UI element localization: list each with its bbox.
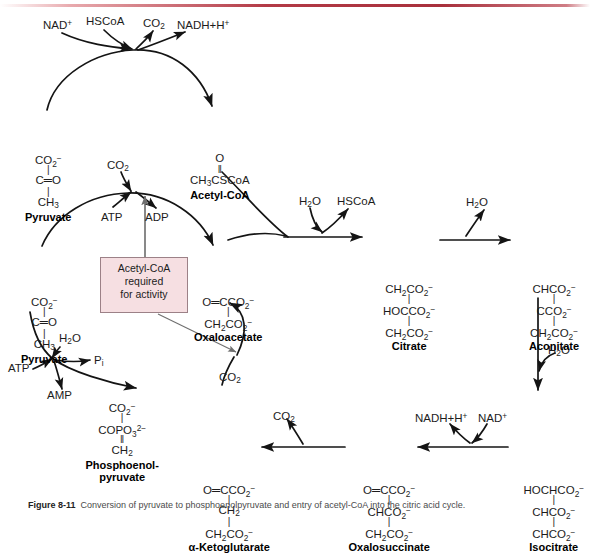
compound-name-isocitrate: Isocitrate (524, 541, 585, 553)
cofactor-co2-akg: CO2 (273, 410, 295, 425)
cofactor-nad-plus-idh: NAD+ (478, 412, 507, 425)
formula-alpha-ketoglutarate: O═CCO2−|CH2|CH2CO2− (189, 482, 270, 539)
compound-name2-phosphoenolpyruvate: pyruvate (86, 471, 159, 483)
formula-phosphoenolpyruvate: CO2−|COPO32−‖CH2 (86, 400, 159, 457)
cofactor-atp-pc: ATP (101, 211, 123, 224)
figure-caption: Figure 8-11 Conversion of pyruvate to ph… (28, 500, 568, 510)
compound-oxalosuccinate: O═CCO2−|CHCO2−|CH2CO2−Oxalosuccinate (349, 482, 430, 553)
formula-pyruvate-bottom: CO2−|C═O|CH3 (21, 294, 67, 351)
cofactor-nadh-h-idh: NADH+H+ (415, 412, 467, 425)
compound-name-pyruvate-bottom: Pyruvate (21, 353, 67, 365)
formula-acetyl-coa: O‖CH3CSCoA (190, 152, 250, 187)
compound-phosphoenolpyruvate: CO2−|COPO32−‖CH2Phosphoenol-pyruvate (86, 400, 159, 484)
cofactor-co2-top: CO2 (143, 17, 165, 32)
compound-citrate: CH2CO2−|HOCCO2−|CH2CO2−Citrate (383, 281, 435, 352)
cofactor-co2-pepck: CO2 (219, 371, 241, 386)
cofactor-h2o-cs: H2O (299, 195, 321, 210)
cofactor-pi-pepck: Pi (94, 354, 104, 369)
formula-pyruvate-top: CO2−|C═O|CH3 (25, 152, 71, 209)
callout-line-1: Acetyl-CoA (106, 262, 182, 275)
cofactor-nad-plus-top: NAD+ (43, 19, 72, 32)
compound-alpha-ketoglutarate: O═CCO2−|CH2|CH2CO2−α-Ketoglutarate (189, 482, 270, 553)
compound-pyruvate-bottom: CO2−|C═O|CH3Pyruvate (21, 294, 67, 365)
cofactor-hscoa-cs: HSCoA (337, 195, 375, 208)
compound-name-aconitate: Aconitate (529, 340, 579, 352)
compound-name-acetyl-coa: Acetyl-CoA (190, 189, 250, 201)
cofactor-amp-pepck: AMP (47, 389, 72, 402)
formula-aconitate: CHCO2−|CCO2−|CH2CO2− (529, 281, 579, 338)
compound-name-pyruvate-top: Pyruvate (25, 211, 71, 223)
cofactor-h2o-aconitase-1: H2O (466, 196, 488, 211)
compound-pyruvate-top: CO2−|C═O|CH3Pyruvate (25, 152, 71, 223)
formula-oxaloacetate: O═CCO2−|CH2CO2− (194, 294, 262, 329)
compound-name-oxaloacetate: Oxaloacetate (194, 331, 262, 343)
formula-citrate: CH2CO2−|HOCCO2−|CH2CO2− (383, 281, 435, 338)
compound-isocitrate: HOCHCO2−|CHCO2−|CHCO2−Isocitrate (524, 482, 585, 553)
formula-isocitrate: HOCHCO2−|CHCO2−|CHCO2− (524, 482, 585, 539)
callout-line-2: required (106, 275, 182, 288)
cofactor-nadh-h-top: NADH+H+ (177, 19, 229, 32)
cofactor-adp-pc: ADP (145, 211, 169, 224)
compound-acetyl-coa: O‖CH3CSCoAAcetyl-CoA (190, 152, 250, 201)
formula-oxalosuccinate: O═CCO2−|CHCO2−|CH2CO2− (349, 482, 430, 539)
compound-aconitate: CHCO2−|CCO2−|CH2CO2−Aconitate (529, 281, 579, 352)
cofactor-hscoa-top: HSCoA (86, 15, 124, 28)
compound-name-phosphoenolpyruvate: Phosphoenol- (86, 459, 159, 471)
callout-line-3: for activity (106, 288, 182, 301)
compound-name-oxalosuccinate: Oxalosuccinate (349, 541, 430, 553)
compound-name-alpha-ketoglutarate: α-Ketoglutarate (189, 541, 270, 553)
callout-box: Acetyl-CoA required for activity (100, 257, 188, 313)
cofactor-co2-pc: CO2 (107, 159, 129, 174)
compound-oxaloacetate: O═CCO2−|CH2CO2−Oxaloacetate (194, 294, 262, 343)
